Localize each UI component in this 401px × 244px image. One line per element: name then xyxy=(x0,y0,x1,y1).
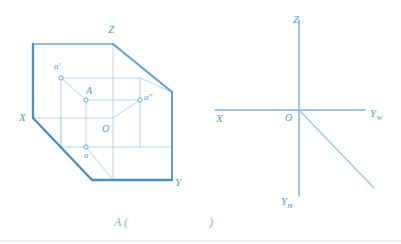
marker-a xyxy=(84,145,88,149)
edge-a-to-bottom-corner xyxy=(86,147,113,180)
left-label-point-A: A xyxy=(86,86,92,96)
left-label-a-prime: a' xyxy=(54,62,60,71)
left-label-origin: O xyxy=(102,124,109,134)
right-label-origin: O xyxy=(285,113,292,123)
left-label-a-double-prime: a" xyxy=(144,93,152,102)
right-label-x: X xyxy=(216,113,223,124)
plane-bottom-left-edge xyxy=(33,118,92,180)
caption-answer-suffix: ) xyxy=(209,216,213,228)
left-label-z: Z xyxy=(108,24,114,35)
right-label-yh: YH xyxy=(281,196,292,210)
edge-O-to-adoubleprime xyxy=(113,100,140,118)
plane-top-right-edge xyxy=(113,44,172,92)
left-label-a: a xyxy=(84,151,89,160)
marker-a-double-prime xyxy=(138,98,142,102)
left-label-y: Y xyxy=(175,177,181,188)
right-label-yw-sub: W xyxy=(376,114,382,122)
left-label-x: X xyxy=(19,112,26,123)
right-diagram-group xyxy=(215,20,374,196)
marker-A xyxy=(84,98,88,102)
right-label-yw: YW xyxy=(370,108,382,122)
edge-aprime-to-A xyxy=(61,78,86,100)
caption-answer-prefix: A ( xyxy=(114,216,128,228)
drawing-canvas xyxy=(0,0,401,244)
right-label-yh-sub: H xyxy=(287,202,292,210)
right-label-z: Z xyxy=(293,14,299,25)
axis-diagonal-45 xyxy=(299,110,374,188)
figure-root: Z X Y O A a' a a" Z X O YW YH A ( ) xyxy=(0,0,401,244)
marker-a-prime xyxy=(59,76,63,80)
